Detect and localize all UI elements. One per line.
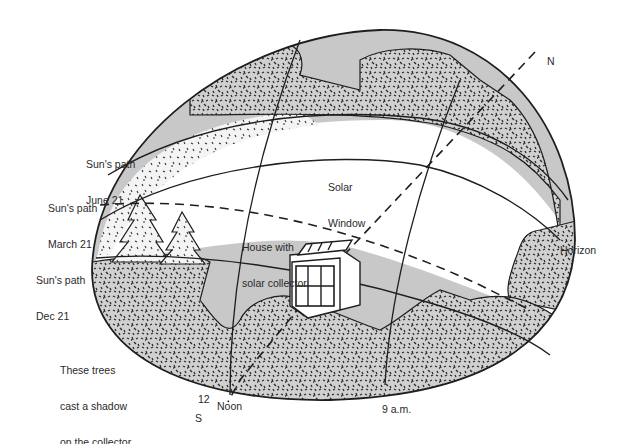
twelve-label: 12: [198, 393, 210, 405]
nine-am-label: 9 a.m.: [382, 403, 411, 415]
noon-label: Noon: [217, 400, 242, 412]
south-label: S: [195, 412, 202, 424]
house-label: House with solar collector: [242, 217, 307, 313]
dec-21-label: Sun's path Dec 21: [36, 250, 85, 346]
trees-shadow-note: These trees cast a shadow on the collect…: [60, 340, 136, 444]
solar-window-diagram: Sun's path June 21 Sun's path March 21 S…: [0, 0, 629, 444]
solar-window-label: Solar Window: [328, 157, 365, 253]
horizon-label: Horizon: [560, 244, 596, 256]
north-label: N: [547, 55, 555, 67]
